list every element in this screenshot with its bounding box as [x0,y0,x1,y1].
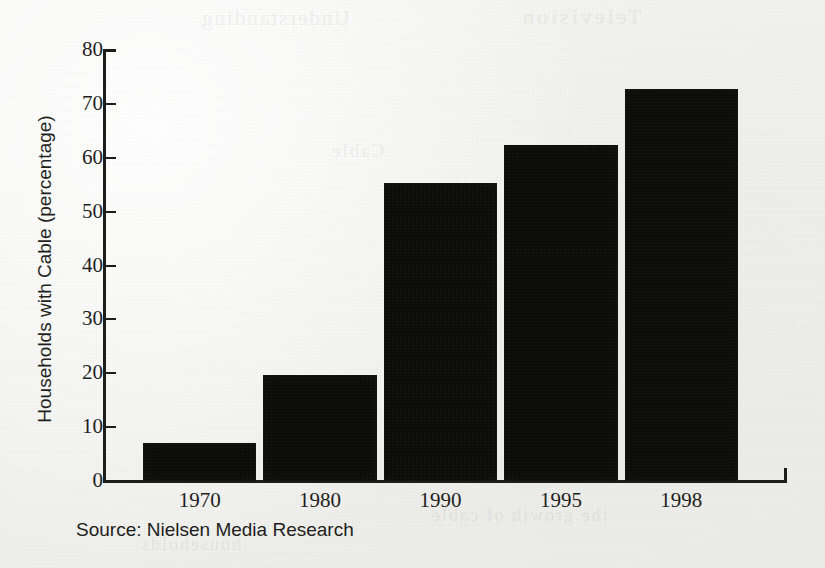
y-axis-tick-label: 70 [57,93,103,114]
bar-1970 [143,443,256,481]
bar-1990 [384,183,497,481]
y-axis-tick [103,372,116,374]
y-axis-tick-label: 40 [57,255,103,276]
y-axis-tick-label: 20 [57,362,103,383]
y-axis-tick [103,318,116,320]
y-axis-tick-label: 30 [57,308,103,329]
bar-chart: Households with Cable (percentage) 01020… [0,0,825,568]
y-axis-tick [103,211,116,213]
y-axis-tick [103,480,116,482]
x-axis-tick-label-1998: 1998 [625,490,738,511]
x-axis-tick-label-1970: 1970 [143,490,256,511]
source-note: Source: Nielsen Media Research [76,519,354,541]
y-axis-tick-label: 60 [57,147,103,168]
y-axis-tick-label: 10 [57,416,103,437]
y-axis-tick [103,426,116,428]
y-axis-top-cap [103,49,116,52]
bar-1998 [625,89,738,481]
y-axis-tick [103,265,116,267]
x-axis-tick-label-1995: 1995 [504,490,617,511]
bar-1980 [263,375,376,481]
x-axis-right-cap [784,468,787,483]
y-axis-title: Households with Cable (percentage) [34,69,56,469]
x-axis-tick-label-1980: 1980 [263,490,376,511]
x-axis-tick-label-1990: 1990 [384,490,497,511]
bar-1995 [504,145,617,481]
y-axis-tick-label: 50 [57,201,103,222]
y-axis-tick [103,103,116,105]
y-axis-tick [103,157,116,159]
y-axis-tick-label: 0 [57,470,103,491]
scanned-chart-page: Understanding Television Cable the growt… [0,0,825,568]
y-axis-tick-label: 80 [57,39,103,60]
